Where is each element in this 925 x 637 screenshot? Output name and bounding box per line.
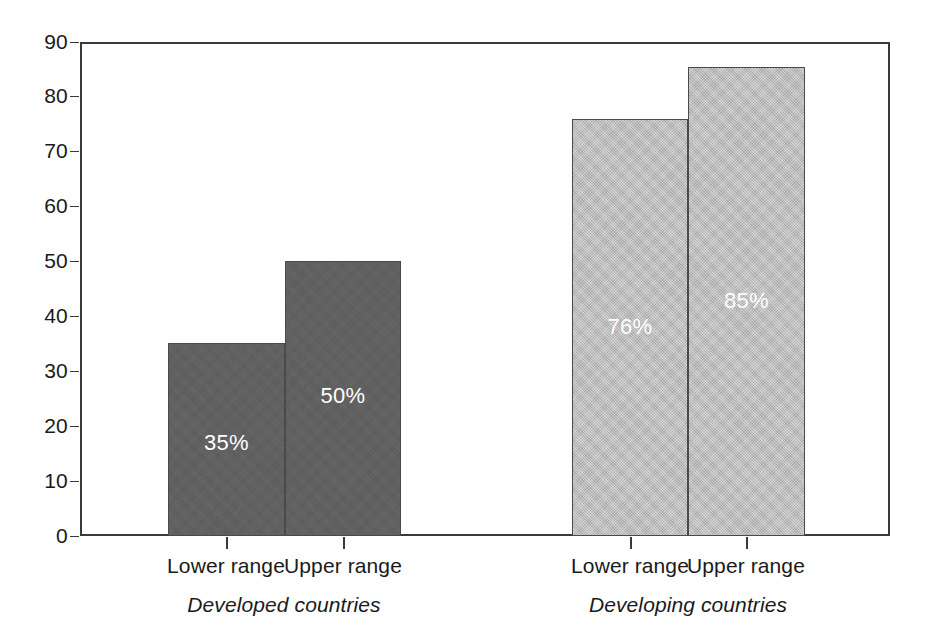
x-tick-developing-upper — [746, 537, 748, 549]
y-tick-30 — [70, 371, 79, 372]
y-tick-0 — [70, 536, 79, 537]
group-label-developed: Developed countries — [164, 593, 404, 617]
bar-developed-upper: 50% — [285, 261, 401, 536]
bar-value-developed-lower: 35% — [169, 432, 284, 454]
y-tick-60 — [70, 206, 79, 207]
group-label-developing: Developing countries — [568, 593, 808, 617]
y-axis-label-0: 0 — [6, 525, 68, 546]
y-tick-80 — [70, 96, 79, 97]
y-axis-label-20: 20 — [6, 415, 68, 436]
bar-value-developed-upper: 50% — [286, 385, 400, 407]
y-axis-label-90: 90 — [6, 31, 68, 52]
y-tick-40 — [70, 316, 79, 317]
bar-developed-lower: 35% — [168, 343, 285, 536]
y-axis-label-10: 10 — [6, 470, 68, 491]
x-axis-label-developing-upper: Upper range — [666, 554, 826, 578]
y-tick-20 — [70, 426, 79, 427]
bar-developing-lower: 76% — [572, 119, 688, 536]
y-axis-label-40: 40 — [6, 305, 68, 326]
bar-value-developing-upper: 85% — [689, 290, 804, 312]
y-tick-90 — [70, 42, 79, 43]
x-axis-label-developed-upper: Upper range — [263, 554, 423, 578]
bar-chart: 90 80 70 60 50 40 30 20 10 0 35% 50% 76%… — [0, 0, 925, 637]
y-axis-label-80: 80 — [6, 85, 68, 106]
x-tick-developing-lower — [630, 537, 632, 549]
y-axis-label-60: 60 — [6, 195, 68, 216]
y-tick-50 — [70, 261, 79, 262]
y-tick-70 — [70, 151, 79, 152]
y-axis-label-30: 30 — [6, 360, 68, 381]
bar-value-developing-lower: 76% — [573, 316, 687, 338]
y-tick-10 — [70, 481, 79, 482]
x-tick-developed-upper — [343, 537, 345, 549]
y-axis-label-70: 70 — [6, 140, 68, 161]
x-tick-developed-lower — [226, 537, 228, 549]
y-axis-label-50: 50 — [6, 250, 68, 271]
bar-developing-upper: 85% — [688, 67, 805, 536]
